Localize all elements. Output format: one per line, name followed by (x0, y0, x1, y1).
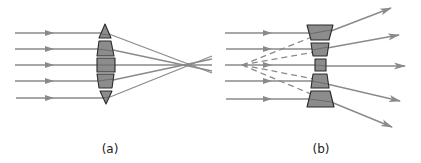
panel-b-diverging (225, 8, 405, 127)
lens-prism-top (99, 24, 111, 38)
virtual-ray (242, 65, 314, 79)
virtual-ray (242, 52, 314, 65)
incoming-rays-a (15, 33, 105, 98)
refracted-rays-a (109, 34, 212, 97)
converging-lens (97, 24, 115, 104)
refracted-ray (113, 50, 212, 71)
lens-prism-upper (97, 41, 114, 56)
virtual-ray (242, 65, 311, 94)
diverging-ray (331, 102, 392, 127)
lens-prism-top (307, 25, 333, 40)
virtual-ray (242, 37, 312, 65)
diverging-ray (327, 35, 399, 48)
refracted-ray (110, 56, 212, 97)
lens-diagram: (a) (b) (0, 0, 421, 163)
refracted-rays-b (326, 8, 405, 127)
panel-a-converging (15, 24, 212, 104)
incoming-rays-b (225, 33, 315, 99)
diverging-ray (327, 84, 400, 101)
panel-b-label: (b) (313, 142, 330, 156)
panel-a-label: (a) (102, 142, 119, 156)
diverging-ray (331, 8, 391, 31)
diagram-canvas (0, 0, 421, 163)
lens-prism-lower (311, 74, 329, 88)
